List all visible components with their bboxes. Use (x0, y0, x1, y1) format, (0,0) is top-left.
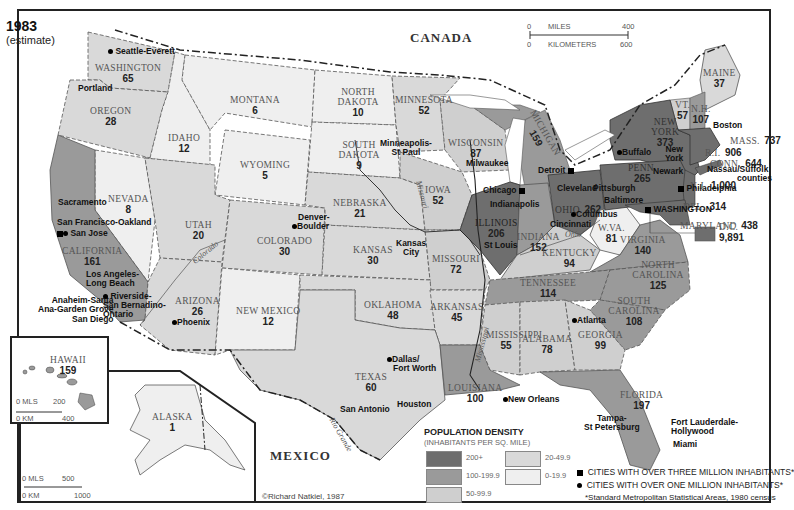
country-label-mexico: MEXICO (270, 448, 331, 464)
city-pittsburgh: Pittsburgh (593, 184, 636, 193)
city-chicago: Chicago (483, 186, 525, 195)
map-subtitle: (estimate) (6, 34, 55, 46)
state-virginia: VIRGINIA140 (620, 235, 666, 256)
city-dallas: Dallas/Fort Worth (387, 355, 436, 373)
state-missouri: MISSOURI72 (432, 254, 480, 275)
city-san-francisco: San Francisco-Oakland (57, 218, 151, 227)
city-columbus: Columbus (571, 210, 618, 219)
city-buffalo: Buffalo (617, 148, 651, 157)
city-minneapolis: Minneapolis-St Paul (380, 139, 432, 157)
city-nassau-suffolk: Nassau/Suffolkcounties (707, 165, 772, 183)
scale-miles-zero: 0 (527, 22, 531, 31)
city-los-angeles: Los Angeles-Long Beach (86, 270, 139, 288)
city-cleveland: Cleveland (557, 184, 597, 193)
state-california: CALIFORNIA161 (62, 246, 123, 267)
river-ohio: Ohio (565, 230, 581, 239)
state-north-dakota: NORTH DAKOTA10 (333, 87, 383, 118)
hawaii-scale-mls-max: 200 (53, 397, 66, 406)
scale-miles-label: MILES (548, 22, 571, 31)
city-washington: WASHINGTON (645, 205, 712, 214)
city-portland: Portland (78, 84, 112, 93)
city-dot-icon (577, 483, 582, 488)
legend-label-100-199: 100-199.9 (466, 471, 500, 480)
city-square-icon (678, 186, 684, 192)
hawaii-scale-km: 0 KM (16, 414, 34, 423)
city-square-icon (519, 188, 525, 194)
state-alabama: ALABAMA78 (522, 334, 572, 355)
scale-km-max: 600 (620, 40, 633, 49)
legend-footnote: *Standard Metropolitan Statistical Areas… (585, 493, 776, 502)
legend-swatch-50-99 (426, 487, 462, 503)
state-colorado: COLORADO30 (257, 236, 312, 257)
city-phoenix: Phoenix (172, 318, 210, 327)
city-boston: Boston (713, 121, 742, 130)
legend-label-20-49: 20-49.9 (545, 453, 570, 462)
legend-swatch-200-plus (426, 451, 462, 467)
city-san-antonio: San Antonio (340, 405, 390, 414)
hawaii-scale-km-max: 400 (62, 414, 75, 423)
scale-miles-max: 400 (622, 22, 635, 31)
state-wisconsin: WISCONSIN87 (448, 138, 503, 159)
legend-label-0-19: 0-19.9 (545, 471, 566, 480)
city-square-icon (577, 470, 583, 476)
city-fort-lauderdale: Fort Lauderdale-Hollywood (671, 418, 738, 436)
state-wyoming: WYOMING5 (240, 160, 290, 181)
city-newark: Newark (653, 167, 683, 176)
city-denver: Denver-Boulder (292, 213, 330, 231)
state-minnesota: MINNESOTA52 (395, 95, 453, 116)
state-nebraska: NEBRASKA21 (333, 198, 387, 219)
state-idaho: IDAHO12 (168, 133, 200, 154)
state-arizona: ARIZONA26 (175, 296, 220, 317)
city-san-jose: San Jose (57, 229, 108, 238)
state-north-carolina: NORTH CAROLINA125 (628, 260, 688, 291)
legend-key-one-million: CITIES WITH OVER ONE MILLION INHABITANTS… (577, 480, 783, 490)
state-texas: TEXAS60 (355, 372, 387, 393)
state-south-dakota: SOUTH DAKOTA9 (334, 140, 384, 171)
map-title: 1983 (6, 18, 37, 34)
city-square-icon (645, 207, 651, 213)
state-florida: FLORIDA197 (620, 390, 663, 411)
city-atlanta: Atlanta (572, 316, 606, 325)
city-philadelphia: Philadelphia (678, 184, 736, 193)
legend-swatch-100-199 (426, 469, 462, 485)
city-kansas-city: KansasCity (396, 239, 426, 257)
legend-title: POPULATION DENSITY (424, 427, 524, 437)
state-tennessee: TENNESSEE114 (520, 278, 576, 299)
state-mississippi: MISSISSIPPI55 (486, 330, 526, 351)
map-credit: ©Richard Natkiel, 1987 (262, 492, 344, 501)
city-sacramento: Sacramento (58, 198, 107, 207)
state-utah: UTAH20 (185, 220, 212, 241)
state-illinois: ILLINOIS206 (475, 218, 518, 239)
city-dot-icon (63, 231, 68, 236)
state-kentucky: KENTUCKY94 (542, 248, 597, 269)
state-nevada: NEVADA8 (108, 194, 149, 215)
country-label-canada: CANADA (410, 30, 472, 46)
state-louisiana: LOUISIANA100 (448, 383, 502, 404)
legend-key-three-million: CITIES WITH OVER THREE MILLION INHABITAN… (577, 467, 794, 477)
state-oregon: OREGON28 (90, 106, 131, 127)
legend-label-200-plus: 200+ (466, 453, 483, 462)
alaska-scale-mls: 0 MLS (22, 474, 44, 483)
city-indianapolis: Indianapolis (490, 200, 540, 209)
state-oklahoma: OKLAHOMA48 (364, 300, 422, 321)
city-dot-icon (108, 49, 113, 54)
state-montana: MONTANA6 (230, 95, 280, 116)
city-cincinnati: Cincinnati (550, 220, 591, 229)
state-maine: MAINE37 (703, 68, 736, 89)
city-new-orleans: New Orleans (503, 395, 560, 404)
legend-label-50-99: 50-99.9 (466, 489, 491, 498)
city-miami: Miami (673, 440, 697, 449)
city-seattle: Seattle-Everett (108, 47, 175, 56)
scale-km-label: KILOMETERS (548, 40, 596, 49)
state-hawaii: HAWAII159 (50, 355, 86, 376)
alaska-scale-km-max: 1000 (74, 491, 91, 500)
state-georgia: GEORGIA99 (578, 330, 623, 351)
city-tampa: Tampa-St Petersburg (584, 414, 640, 432)
scale-km-zero: 0 (527, 40, 531, 49)
city-detroit: Detroit (538, 166, 574, 175)
state-washington: WASHINGTON65 (95, 63, 161, 84)
city-san-diego: San Diego (72, 315, 114, 324)
state-alaska: ALASKA1 (152, 412, 192, 433)
alaska-scale-mls-max: 500 (62, 474, 75, 483)
state-new-hampshire: N.H.107 (691, 104, 711, 125)
